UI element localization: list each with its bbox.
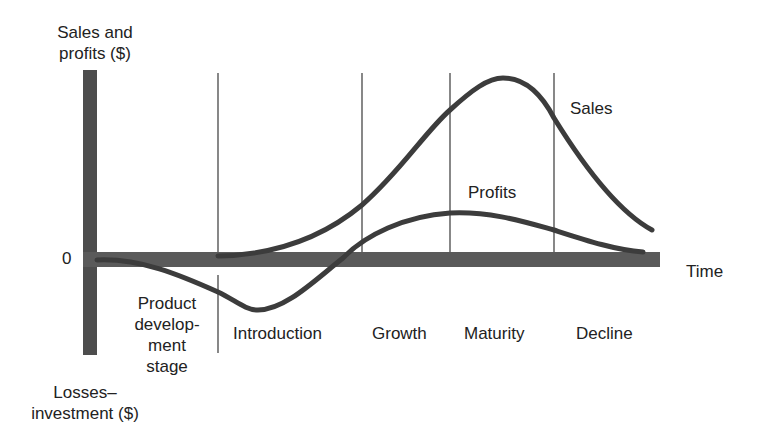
- life-cycle-diagram: [0, 0, 766, 447]
- y-axis-top-label: Sales and profits ($): [40, 22, 150, 64]
- zero-label: 0: [62, 248, 71, 269]
- stage-label-growth: Growth: [372, 323, 427, 344]
- stage-label-introduction: Introduction: [233, 323, 322, 344]
- stage-label-development-line2: develop-: [118, 314, 216, 335]
- stage-label-development-line3: ment: [118, 335, 216, 356]
- stage-label-maturity: Maturity: [464, 323, 524, 344]
- y-axis-top-label-line1: Sales and: [40, 22, 150, 43]
- y-axis-bottom-label-line1: Losses–: [15, 382, 155, 403]
- stage-label-development: Product develop- ment stage: [118, 293, 216, 377]
- profits-curve-label: Profits: [468, 182, 516, 203]
- x-axis-bar: [83, 252, 660, 267]
- stage-label-development-line1: Product: [118, 293, 216, 314]
- stage-label-development-line4: stage: [118, 356, 216, 377]
- y-axis-bottom-label-line2: investment ($): [15, 403, 155, 424]
- stage-label-decline: Decline: [576, 323, 633, 344]
- y-axis-bottom-label: Losses– investment ($): [15, 382, 155, 424]
- x-axis-label: Time: [686, 261, 723, 282]
- sales-curve-label: Sales: [570, 98, 613, 119]
- y-axis-top-label-line2: profits ($): [40, 43, 150, 64]
- y-axis-bar: [83, 70, 97, 355]
